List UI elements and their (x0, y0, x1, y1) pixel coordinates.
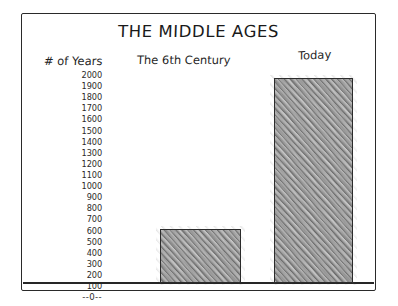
chart-screenshot: THE MIDDLE AGES # of Years The 6th Centu… (0, 0, 398, 306)
y-tick: 600 (62, 226, 102, 237)
y-tick: 800 (62, 203, 102, 214)
y-tick-zero: --0-- (62, 292, 102, 303)
y-tick: 1100 (62, 170, 102, 181)
y-tick: 1200 (62, 159, 102, 170)
y-tick: 1800 (62, 92, 102, 103)
category-label-6th-century: The 6th Century (137, 53, 231, 67)
y-tick: 1400 (62, 137, 102, 148)
y-tick: 400 (62, 248, 102, 259)
category-label-today: Today (298, 47, 331, 62)
chart-title: THE MIDDLE AGES (21, 22, 377, 41)
y-tick: 1300 (62, 148, 102, 159)
y-tick: 2000 (62, 70, 102, 81)
y-tick: 1600 (62, 114, 102, 125)
bar-6th-century (160, 229, 241, 283)
bar-today (274, 78, 353, 283)
y-axis-label: # of Years (44, 54, 103, 68)
y-tick: 1900 (62, 81, 102, 92)
y-tick: 500 (62, 237, 102, 248)
y-tick: 200 (62, 270, 102, 281)
y-tick: 900 (62, 192, 102, 203)
y-tick: 1500 (62, 126, 102, 137)
y-tick: 700 (62, 214, 102, 225)
y-axis-tick-labels: 2000 1900 1800 1700 1600 1500 1400 1300 … (62, 70, 102, 303)
y-tick: 300 (62, 259, 102, 270)
y-tick: 1700 (62, 103, 102, 114)
y-tick: 1000 (62, 181, 102, 192)
